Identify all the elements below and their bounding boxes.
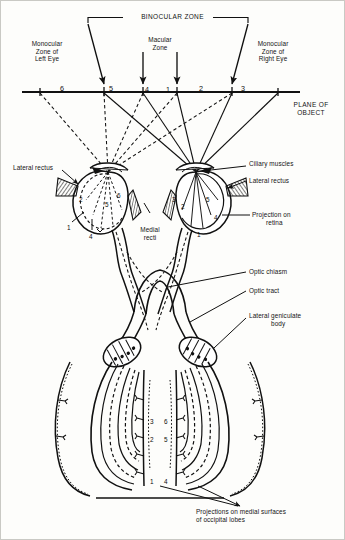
occipital-number-left-1: 1 [150, 478, 154, 485]
monocular-right-line3: Right Eye [238, 55, 308, 63]
left-retina-number-5: 5 [105, 201, 109, 208]
monocular-left-line2: Zone of [12, 48, 82, 56]
optic-tract-label: Optic tract [249, 287, 279, 295]
lateral-rectus-left-label: Lateral rectus [13, 164, 53, 172]
plane-number-4: 4 [145, 85, 149, 94]
projection-retina-number: 4 [214, 214, 218, 221]
right-retina-number-3: 3 [172, 196, 176, 203]
monocular-right-line2: Zone of [238, 48, 308, 56]
plane-number-1: 1 [166, 85, 170, 94]
right-retina-number-5: 5 [206, 196, 210, 203]
left-retina-number-1: 1 [67, 224, 71, 231]
lateral-geniculate-line1: Lateral geniculate [249, 312, 341, 320]
occipital-number-left-3: 3 [150, 418, 154, 425]
visual-pathway-diagram [0, 0, 345, 540]
lateral-rectus-right-label: Lateral rectus [249, 177, 289, 185]
plane-number-2: 2 [199, 84, 203, 93]
monocular-left-line3: Left Eye [12, 55, 82, 63]
binocular-zone-title: BINOCULAR ZONE [115, 13, 230, 21]
plane-number-6: 6 [60, 84, 64, 93]
projection-on-retina-line2: retina [252, 219, 322, 227]
occipital-number-right-5: 5 [164, 436, 168, 443]
right-retina-number-2: 2 [181, 203, 185, 210]
projection-on-retina-line1: Projection on [252, 211, 322, 219]
figure-canvas: BINOCULAR ZONE Monocular Zone of Left Ey… [0, 0, 345, 540]
left-retina-number-4: 4 [89, 233, 93, 240]
ciliary-muscles-label: Ciliary muscles [249, 160, 293, 168]
plane-of-object-line1: PLANE OF [283, 101, 339, 109]
occipital-number-right-4: 4 [164, 478, 168, 485]
left-retina-number-2: 2 [79, 196, 83, 203]
optic-chiasm-label: Optic chiasm [249, 268, 287, 276]
right-retina-number-1: 1 [197, 231, 201, 238]
medial-recti-line2: recti [129, 234, 171, 242]
occipital-caption-line2: of occipital lobes [196, 516, 341, 524]
plane-number-5: 5 [109, 84, 113, 93]
medial-recti-line1: Medial [129, 226, 171, 234]
left-retina-number-6: 6 [117, 192, 121, 199]
monocular-right-line1: Monocular [238, 40, 308, 48]
occipital-caption-line1: Projections on medial surfaces [196, 508, 341, 516]
occipital-number-right-6: 6 [164, 418, 168, 425]
plane-of-object-line2: OBJECT [283, 109, 339, 117]
lateral-geniculate-line2: body [249, 320, 341, 328]
macular-zone-line1: Macular [133, 36, 187, 44]
macular-zone-line2: Zone [133, 44, 187, 52]
occipital-number-left-2: 2 [150, 436, 154, 443]
plane-number-3: 3 [241, 84, 245, 93]
monocular-left-line1: Monocular [12, 40, 82, 48]
